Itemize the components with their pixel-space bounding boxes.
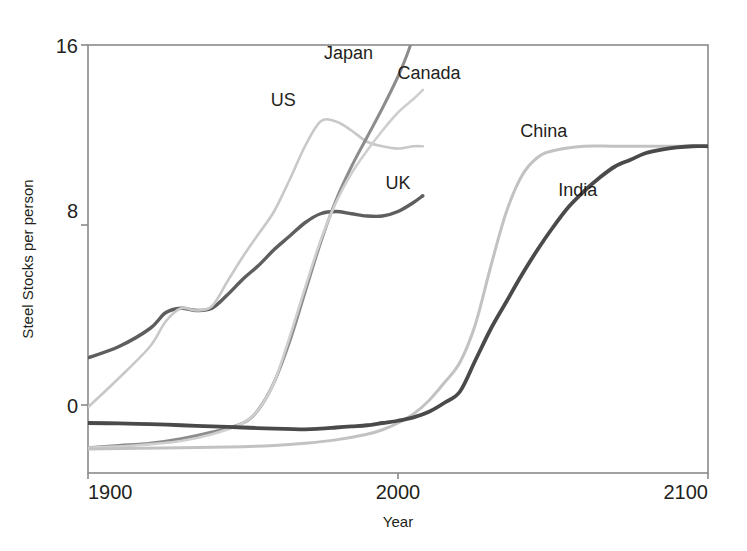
steel-stocks-line-chart: 16 8 0 1900 2000 2100 Year Steel Stocks … [0,0,747,551]
x-tick-label-2100: 2100 [664,481,709,503]
series-label-japan: Japan [324,43,373,63]
series-label-china: China [520,121,568,141]
y-axis-title: Steel Stocks per person [19,179,36,338]
chart-background [0,0,747,551]
series-label-canada: Canada [397,63,461,83]
x-tick-label-2000: 2000 [376,481,421,503]
y-tick-label-8: 8 [67,200,78,222]
series-label-uk: UK [385,173,410,193]
series-label-us: US [271,90,296,110]
chart-figure: 16 8 0 1900 2000 2100 Year Steel Stocks … [0,0,747,551]
x-tick-label-1900: 1900 [88,481,133,503]
y-tick-label-16: 16 [56,35,78,57]
y-tick-label-0: 0 [67,395,78,417]
x-axis-title: Year [383,513,413,530]
series-label-india: India [558,180,598,200]
